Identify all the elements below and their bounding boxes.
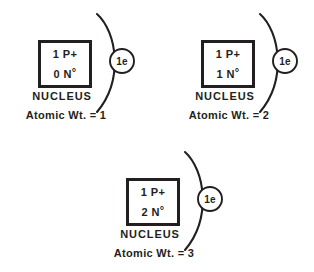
neutron-count-value: 0 xyxy=(53,68,60,80)
neutron-count-label: 2 N° xyxy=(141,207,164,218)
nucleus-box: 1 P+ 2 N° xyxy=(126,178,180,226)
atomic-weight-label: Atomic Wt. = 1 xyxy=(12,109,120,121)
neutron-symbol: N xyxy=(226,68,234,80)
nucleus-caption: NUCLEUS xyxy=(181,90,269,102)
nucleus-box: 1 P+ 0 N° xyxy=(38,40,92,88)
neutron-degree-symbol: ° xyxy=(72,66,77,78)
atom-diagram-hydrogen-2: 1e 1 P+ 1 N° NUCLEUS Atomic Wt. = 2 xyxy=(175,8,307,134)
atom-diagram-hydrogen-3: 1e 1 P+ 2 N° NUCLEUS Atomic Wt. = 3 xyxy=(100,146,232,272)
neutron-symbol: N xyxy=(151,206,159,218)
neutron-symbol: N xyxy=(63,68,71,80)
proton-count-label: 1 P+ xyxy=(53,49,78,60)
neutron-count-value: 2 xyxy=(141,206,148,218)
neutron-degree-symbol: ° xyxy=(235,66,240,78)
nucleus-box: 1 P+ 1 N° xyxy=(201,40,255,88)
atomic-weight-label: Atomic Wt. = 3 xyxy=(100,247,208,259)
electron-label: 1e xyxy=(279,56,291,67)
atom-diagram-hydrogen-1: 1e 1 P+ 0 N° NUCLEUS Atomic Wt. = 1 xyxy=(12,8,144,134)
electron-label: 1e xyxy=(204,194,216,205)
nucleus-caption: NUCLEUS xyxy=(106,228,194,240)
proton-count-label: 1 P+ xyxy=(216,49,241,60)
electron-label: 1e xyxy=(116,56,128,67)
neutron-count-label: 0 N° xyxy=(53,69,76,80)
atomic-weight-label: Atomic Wt. = 2 xyxy=(175,109,283,121)
proton-count-label: 1 P+ xyxy=(141,187,166,198)
neutron-count-label: 1 N° xyxy=(216,69,239,80)
nucleus-caption: NUCLEUS xyxy=(18,90,106,102)
neutron-degree-symbol: ° xyxy=(160,204,165,216)
neutron-count-value: 1 xyxy=(216,68,223,80)
diagram-canvas: 1e 1 P+ 0 N° NUCLEUS Atomic Wt. = 1 1e 1… xyxy=(0,0,314,272)
